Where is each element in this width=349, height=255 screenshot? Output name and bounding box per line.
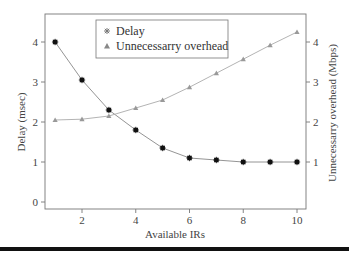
y2-tick-label: 2 (313, 116, 319, 128)
star-marker-icon (104, 28, 110, 34)
axis-ticks: 012341234246810 (33, 36, 320, 226)
y-tick-label: 2 (33, 116, 39, 128)
y-tick-label: 0 (33, 196, 39, 208)
series-line (55, 42, 297, 162)
overhead-point-marker (268, 43, 273, 48)
x-tick-label: 4 (133, 214, 139, 226)
overhead-point-marker (294, 29, 299, 34)
legend-label-delay: Delay (116, 24, 145, 38)
overhead-point-marker (187, 85, 192, 90)
line-chart: 012341234246810 Available IRs Delay (mse… (0, 0, 349, 255)
y2-axis-label: Unnecessarry overhead (Mbps) (326, 44, 339, 182)
legend-label-overhead: Unnecessarry overhead (116, 39, 228, 53)
y-tick-label: 4 (33, 36, 39, 48)
x-tick-label: 8 (241, 214, 247, 226)
y2-tick-label: 4 (313, 36, 319, 48)
x-tick-label: 6 (187, 214, 193, 226)
overhead-point-marker (160, 97, 165, 102)
bottom-rule (0, 247, 349, 251)
overhead-point-marker (241, 57, 246, 62)
x-axis-label: Available IRs (145, 228, 205, 240)
y-tick-label: 1 (33, 156, 39, 168)
overhead-point-marker (214, 71, 219, 76)
y2-tick-label: 3 (313, 76, 319, 88)
x-tick-label: 2 (79, 214, 85, 226)
y-axis-label: Delay (msec) (15, 92, 28, 151)
x-tick-label: 10 (292, 214, 304, 226)
y2-tick-label: 1 (313, 156, 319, 168)
legend: Delay Unnecessarry overhead (96, 20, 228, 58)
y-tick-label: 3 (33, 76, 39, 88)
